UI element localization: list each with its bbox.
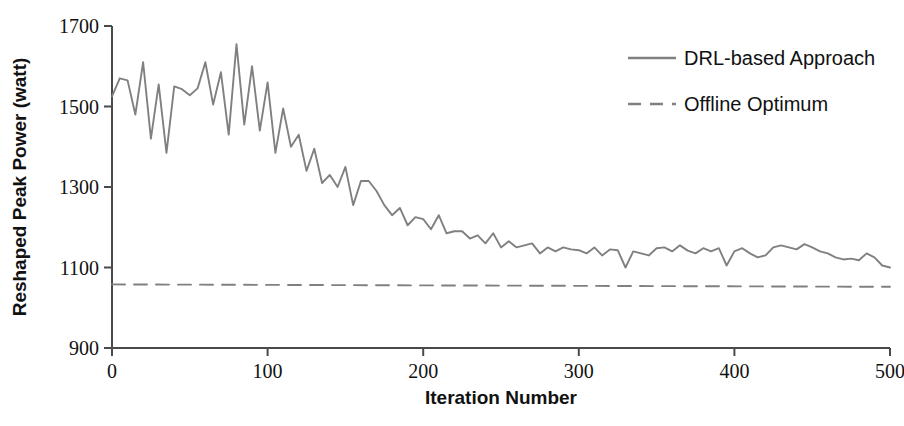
x-tick-label: 100 [253,360,283,382]
y-axis-title: Reshaped Peak Power (watt) [9,58,30,317]
y-tick-label: 1300 [59,176,99,198]
x-axis-ticks [112,348,890,356]
y-tick-label: 1500 [59,96,99,118]
y-tick-label: 1700 [59,15,99,37]
y-tick-label: 900 [69,337,99,359]
x-tick-label: 0 [107,360,117,382]
data-series-group [112,44,890,287]
y-axis-tick-labels: 9001100130015001700 [59,15,99,359]
chart-legend: DRL-based Approach Offline Optimum [628,47,875,115]
legend-label-offline: Offline Optimum [684,93,828,115]
x-tick-label: 200 [408,360,438,382]
line-chart: 9001100130015001700 0100200300400500 Res… [0,0,904,426]
x-axis-tick-labels: 0100200300400500 [107,360,904,382]
x-tick-label: 300 [564,360,594,382]
legend-label-drl: DRL-based Approach [684,47,875,69]
series-drl-based-approach [112,44,890,267]
y-tick-label: 1100 [60,257,99,279]
x-axis-title: Iteration Number [425,387,578,408]
x-tick-label: 400 [719,360,749,382]
y-axis-ticks [104,26,112,348]
x-tick-label: 500 [875,360,904,382]
chart-container: 9001100130015001700 0100200300400500 Res… [0,0,904,426]
series-offline-optimum [112,284,890,286]
